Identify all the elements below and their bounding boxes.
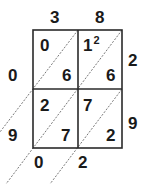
cell-1-1-ones: 2 — [106, 127, 115, 144]
cell-1-0-ones: 7 — [61, 127, 70, 144]
cell-0-1-ones: 6 — [106, 67, 115, 84]
cell-1-1-tens: 7 — [83, 97, 92, 114]
left-result-digit-1: 0 — [8, 67, 17, 84]
right-digit-2: 9 — [128, 115, 137, 132]
top-digit-1: 3 — [50, 9, 59, 26]
diagonal-lines — [0, 30, 122, 184]
lattice-diagram: 3 8 2 9 0 6 12 6 2 7 7 2 0 9 0 2 — [0, 0, 144, 184]
cell-0-0-tens: 0 — [40, 37, 49, 54]
cell-0-1-tens-digit: 1 — [83, 36, 92, 55]
bottom-result-digit-1: 0 — [34, 154, 43, 171]
top-digit-2: 8 — [95, 9, 104, 26]
carry-digit: 2 — [93, 34, 99, 46]
cell-1-0-tens: 2 — [40, 97, 49, 114]
lattice-grid — [0, 0, 144, 184]
cell-0-0-ones: 6 — [62, 67, 71, 84]
right-digit-1: 2 — [128, 52, 137, 69]
left-result-digit-2: 9 — [8, 127, 17, 144]
cell-0-1-tens: 12 — [83, 37, 100, 54]
bottom-result-digit-2: 2 — [78, 154, 87, 171]
